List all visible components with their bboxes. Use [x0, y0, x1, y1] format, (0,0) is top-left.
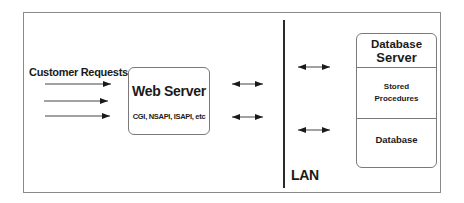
database-section: Database: [357, 119, 436, 159]
stored-procedures-line2: Procedures: [374, 93, 418, 105]
database-server-header: Database Server: [357, 34, 436, 68]
database-server-title-line1: Database: [371, 38, 422, 51]
stored-procedures-section: Stored Procedures: [357, 68, 436, 119]
database-server-title-line2: Server: [376, 51, 416, 64]
web-server-subtitle: CGI, NSAPI, ISAPI, etc: [129, 112, 209, 121]
web-server-title: Web Server: [129, 83, 209, 99]
stored-procedures-line1: Stored: [384, 81, 409, 93]
web-server-box: Web Server CGI, NSAPI, ISAPI, etc: [128, 67, 210, 135]
database-label: Database: [375, 134, 417, 145]
customer-requests-label: Customer Requests: [29, 66, 128, 78]
database-server-box: Database Server Stored Procedures Databa…: [356, 33, 437, 168]
lan-label: LAN: [291, 167, 319, 183]
